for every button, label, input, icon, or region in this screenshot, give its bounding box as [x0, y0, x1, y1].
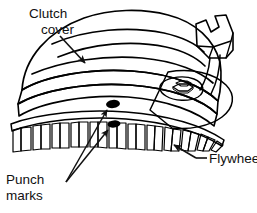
labels: Clutch cover Punch marks Flywheel: [6, 6, 257, 203]
label-clutch-cover-line1: Clutch: [29, 6, 67, 21]
label-clutch-cover-line2: cover: [41, 22, 75, 37]
label-flywheel: Flywheel: [209, 151, 257, 166]
ring-gear-tooth: [60, 123, 69, 148]
label-clutch-cover: Clutch cover: [29, 6, 75, 37]
label-punch-marks: Punch marks: [6, 172, 48, 203]
punch-mark-upper: [106, 99, 121, 109]
ring-gear-tooth: [117, 123, 126, 149]
ring-gear-tooth: [41, 124, 50, 149]
ring-gear-tooth: [71, 122, 79, 147]
label-punch-marks-line2: marks: [6, 188, 43, 203]
figure-clutch-cover-flywheel: Clutch cover Punch marks Flywheel: [0, 0, 257, 213]
ring-gear-tooth: [33, 125, 41, 150]
punch-marks: [106, 99, 121, 128]
cover-contour-lines: [32, 29, 213, 83]
cover-side-rib-2: [211, 55, 220, 94]
hex-bolt: [173, 81, 193, 93]
ring-gear-tooth: [21, 127, 31, 151]
ring-gear-tooth: [128, 124, 136, 149]
ring-gear-tooth: [52, 123, 60, 148]
diagram-canvas: Clutch cover Punch marks Flywheel: [0, 0, 257, 213]
bracket-tab: [196, 15, 233, 58]
ring-gear-tooth: [79, 122, 88, 147]
ring-gear-tooth: [154, 126, 163, 151]
leader-punch-mark-lower: [66, 130, 108, 182]
label-punch-marks-line1: Punch: [6, 172, 44, 187]
label-flywheel-line1: Flywheel: [209, 151, 257, 166]
flywheel-ring-gear: [11, 111, 224, 152]
ring-gear-tooth: [13, 128, 21, 152]
leader-punch-mark-upper: [66, 110, 107, 182]
ring-gear-tooth: [98, 122, 107, 148]
ring-gear-tooth: [136, 124, 145, 150]
